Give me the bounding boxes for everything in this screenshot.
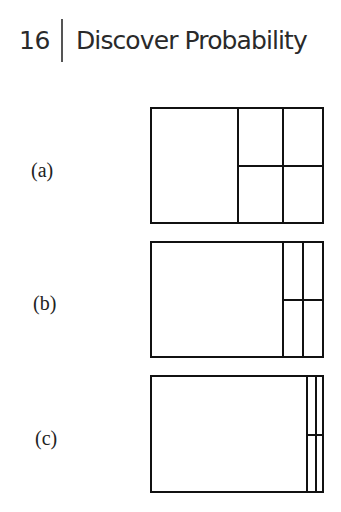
header-divider [61, 19, 63, 62]
diagram-b-divider-horizontal [282, 299, 323, 301]
diagram-a [150, 107, 324, 224]
diagram-c [150, 375, 324, 493]
diagram-c-divider-horizontal [306, 434, 323, 436]
diagram-a-divider-horizontal [237, 165, 322, 167]
diagram-b [150, 241, 324, 358]
chapter-title: Discover Probability [76, 26, 307, 56]
figure-label-c: (c) [35, 427, 57, 449]
page-number: 16 [19, 26, 50, 56]
figure-label-a: (a) [31, 159, 53, 181]
figure-label-b: (b) [33, 292, 56, 314]
page-header: 16 Discover Probability [0, 0, 341, 70]
